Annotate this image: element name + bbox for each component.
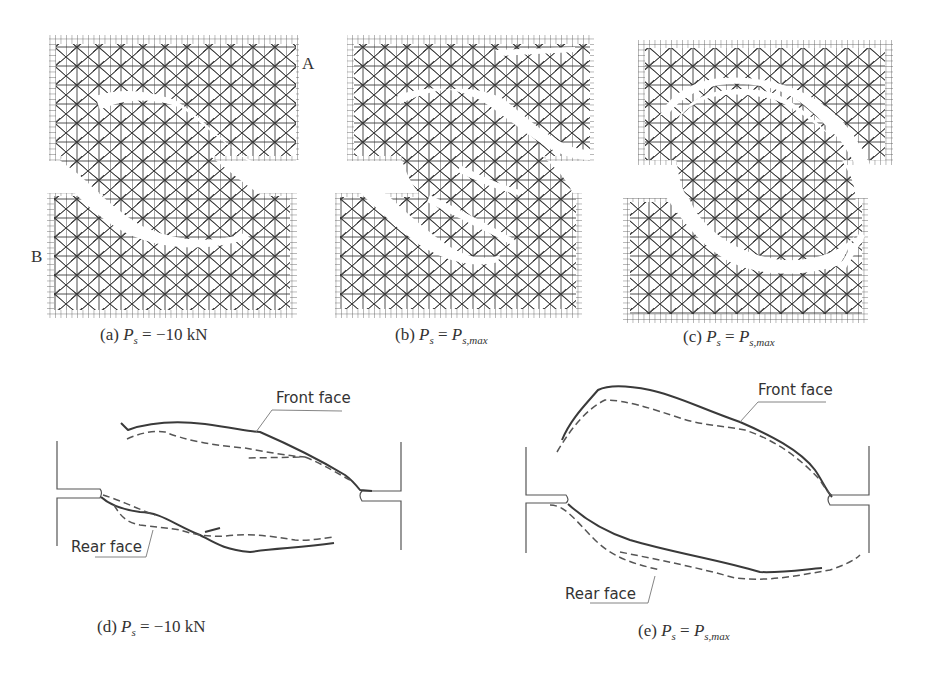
panel-e-rear-label: Rear face: [565, 585, 636, 603]
panel-d-front-label: Front face: [276, 389, 351, 407]
panel-d-front-crack-dashed: [127, 431, 350, 480]
caption-e-prefix: (e): [638, 621, 657, 640]
caption-d: (d) Ps = −10 kN: [97, 617, 205, 638]
caption-e: (e) Ps = Ps,max: [638, 621, 730, 642]
caption-d-symbol: P: [121, 617, 131, 636]
caption-e-symbol: P: [661, 621, 671, 640]
panel-d-rear-label: Rear face: [71, 538, 142, 556]
panel-e-frame: [526, 446, 869, 553]
panel-d-rear-crack-dashed: [103, 495, 333, 540]
caption-e-subscript: s: [672, 630, 676, 642]
panel-e-front-label: Front face: [758, 381, 833, 399]
panel-e-rear-crack: [568, 504, 822, 572]
panel-d-frame: [57, 441, 401, 550]
caption-d-relation: =: [140, 617, 150, 636]
panel-d-leaders: [95, 410, 342, 557]
caption-e-relation: =: [680, 621, 690, 640]
panel-d-front-crack: [121, 422, 372, 491]
caption-d-prefix: (d): [97, 617, 117, 636]
caption-e-value-subscript: s,max: [704, 630, 729, 642]
caption-d-subscript: s: [131, 626, 135, 638]
panel-e-front-crack: [562, 386, 832, 497]
panel-e-leaders: [590, 402, 826, 603]
caption-d-value: −10 kN: [154, 617, 206, 636]
crack-drawings: [0, 0, 926, 673]
caption-e-value: P: [694, 621, 704, 640]
